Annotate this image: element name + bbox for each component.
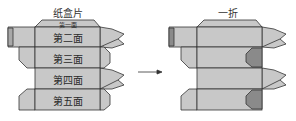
right-row3-left-flap xyxy=(181,47,197,68)
face-label-5: 第五面 xyxy=(35,93,101,108)
right-caption: 一折 xyxy=(218,5,238,20)
left-row2-left-tab xyxy=(8,28,13,46)
left-row2-right-flap xyxy=(100,27,124,48)
arrow-icon xyxy=(138,70,162,74)
right-row5-left-flap xyxy=(181,89,197,110)
right-row2-left-tab xyxy=(169,28,174,46)
left-row5-right-flap xyxy=(100,89,110,110)
face-label-4: 第四面 xyxy=(35,72,101,87)
right-row4-right-flap xyxy=(262,68,286,89)
right-row4 xyxy=(197,68,262,89)
left-row4-right-flap xyxy=(100,68,124,89)
right-top-flap xyxy=(197,20,262,27)
face-label-1: 第一面 xyxy=(35,20,101,29)
face-label-2: 第二面 xyxy=(35,30,101,45)
left-row3-right-flap xyxy=(100,47,110,68)
face-label-3: 第三面 xyxy=(35,51,101,66)
right-row2-right-flap xyxy=(262,27,286,48)
right-row2 xyxy=(197,27,262,47)
left-row3-left-flap xyxy=(19,47,35,68)
left-caption: 纸盒片 xyxy=(53,5,83,20)
left-row5-left-flap xyxy=(19,89,35,110)
